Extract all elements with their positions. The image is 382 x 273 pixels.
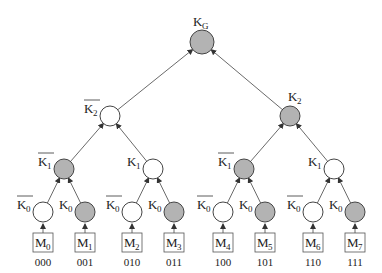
svg-text:3: 3 (177, 242, 182, 252)
node-label: K1 (127, 154, 141, 171)
message-code: 111 (347, 256, 363, 268)
edge-arrow (248, 178, 260, 203)
edge-arrow (157, 178, 169, 203)
svg-text:0: 0 (26, 204, 31, 214)
key-node-L0b (75, 202, 95, 222)
node-label: K2 (288, 89, 302, 106)
message-7: M7111 (345, 224, 365, 268)
key-node-L0a (33, 202, 53, 222)
svg-text:4: 4 (226, 242, 231, 252)
key-node-L0g (303, 202, 323, 222)
edge-arrow (251, 124, 284, 162)
edge-arrow (118, 50, 193, 110)
edge-arrow (227, 178, 239, 203)
svg-text:0: 0 (338, 204, 343, 214)
svg-text:0: 0 (296, 204, 301, 214)
message-code: 011 (166, 256, 182, 268)
node-label: K0 (329, 197, 343, 214)
svg-text:0: 0 (248, 204, 253, 214)
edge-arrow (211, 50, 282, 110)
node-label: K2 (84, 100, 100, 118)
node-label: K0 (148, 197, 162, 214)
key-node-L2a (100, 106, 120, 126)
message-code: 010 (124, 256, 141, 268)
edge-arrow (47, 178, 59, 203)
svg-text:G: G (202, 21, 209, 31)
message-code: 001 (77, 256, 94, 268)
svg-text:1: 1 (47, 161, 52, 171)
key-node-L1c (234, 159, 254, 179)
key-node-L1d (324, 159, 344, 179)
message-4: M4100 (213, 224, 233, 268)
tree-svg: KGK2K2K1K1K1K1K0K0K0K0K0K0K0K0 M0000M100… (0, 0, 382, 273)
svg-text:0: 0 (157, 204, 162, 214)
message-1: M1001 (75, 224, 95, 268)
node-label: K1 (308, 154, 322, 171)
message-code: 100 (215, 256, 232, 268)
key-node-L0f (255, 202, 275, 222)
node-label: K1 (38, 153, 54, 171)
message-code: 000 (35, 256, 52, 268)
message-0: M0000 (33, 224, 53, 268)
key-node-L2b (280, 106, 300, 126)
node-label: K0 (197, 196, 213, 214)
node-label: K0 (17, 196, 33, 214)
svg-text:0: 0 (68, 204, 73, 214)
svg-text:0: 0 (206, 204, 211, 214)
key-node-L0d (164, 202, 184, 222)
svg-text:2: 2 (135, 242, 140, 252)
edge-arrow (71, 124, 104, 162)
nodes: KGK2K2K1K1K1K1K0K0K0K0K0K0K0K0 (17, 14, 365, 222)
svg-text:6: 6 (316, 242, 321, 252)
svg-text:0: 0 (46, 242, 51, 252)
key-tree-diagram: KGK2K2K1K1K1K1K0K0K0K0K0K0K0K0 M0000M100… (0, 0, 382, 273)
message-boxes: M0000M1001M2010M3011M4100M5101M6110M7111 (33, 224, 365, 268)
svg-text:1: 1 (317, 161, 322, 171)
key-node-L0h (345, 202, 365, 222)
message-6: M6110 (303, 224, 323, 268)
svg-text:1: 1 (136, 161, 141, 171)
root-key-node (190, 30, 214, 54)
node-label: KG (193, 14, 209, 31)
svg-text:7: 7 (358, 242, 363, 252)
node-label: K0 (59, 197, 73, 214)
edges (47, 50, 350, 203)
message-3: M3011 (164, 224, 184, 268)
svg-text:0: 0 (115, 204, 120, 214)
node-label: K0 (287, 196, 303, 214)
edge-arrow (136, 178, 148, 203)
key-node-L0e (213, 202, 233, 222)
message-code: 110 (305, 256, 322, 268)
edge-arrow (317, 178, 329, 203)
edge-arrow (68, 178, 80, 203)
key-node-L1b (143, 159, 163, 179)
node-label: K0 (239, 197, 253, 214)
svg-text:2: 2 (93, 108, 98, 118)
message-code: 101 (257, 256, 274, 268)
edge-arrow (338, 178, 350, 203)
svg-text:5: 5 (268, 242, 273, 252)
node-label: K1 (218, 153, 234, 171)
svg-text:2: 2 (297, 96, 302, 106)
svg-text:1: 1 (88, 242, 93, 252)
svg-text:1: 1 (227, 161, 232, 171)
key-node-L1a (54, 159, 74, 179)
message-2: M2010 (122, 224, 142, 268)
message-5: M5101 (255, 224, 275, 268)
key-node-L0c (122, 202, 142, 222)
node-label: K0 (106, 196, 122, 214)
